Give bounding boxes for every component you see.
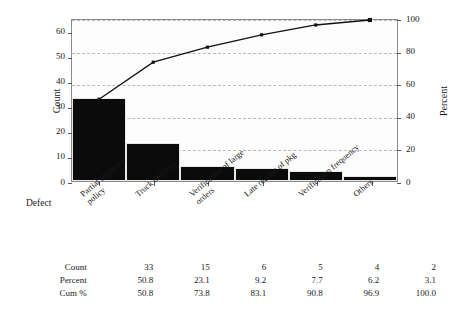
- left-axis-tick-label: 40: [41, 77, 65, 86]
- axis-tick: [68, 158, 72, 159]
- axis-tick: [68, 183, 72, 184]
- table-cell: 73.8: [153, 288, 210, 301]
- axis-tick: [68, 133, 72, 134]
- right-axis-tick-label: 80: [406, 47, 432, 56]
- table-cell: 33: [97, 262, 154, 275]
- table-cell: 100.0: [379, 288, 436, 301]
- axis-tick: [397, 53, 401, 54]
- axis-tick: [68, 83, 72, 84]
- left-axis-tick-label: 50: [41, 52, 65, 61]
- table-row-label: Cum %: [26, 288, 97, 301]
- axis-tick: [397, 20, 401, 21]
- table-cell: 50.8: [97, 288, 154, 301]
- table-cell: 90.8: [266, 288, 323, 301]
- table-cell: 23.1: [153, 275, 210, 288]
- table-row: Percent50.823.19.27.76.23.1: [26, 275, 436, 288]
- table-cell: 5: [266, 262, 323, 275]
- right-axis-tick-label: 60: [406, 80, 432, 89]
- right-axis-tick-label: 0: [406, 178, 432, 187]
- table-cell: 15: [153, 262, 210, 275]
- data-table: Count33156542Percent50.823.19.27.76.23.1…: [26, 262, 436, 301]
- x-axis-title-defect: Defect: [26, 198, 51, 208]
- table-cell: 4: [323, 262, 380, 275]
- table-cell: 7.7: [266, 275, 323, 288]
- table-row: Count33156542: [26, 262, 436, 275]
- left-axis-tick-label: 0: [41, 178, 65, 187]
- axis-tick: [397, 118, 401, 119]
- table-row: Cum %50.873.883.190.896.9100.0: [26, 288, 436, 301]
- table-cell: 6: [210, 262, 267, 275]
- left-axis-tick-label: 30: [41, 102, 65, 111]
- pareto-chart-figure: Count Percent 0102030405060 020406080100…: [0, 0, 458, 322]
- table-cell: 83.1: [210, 288, 267, 301]
- table-row-label: Percent: [26, 275, 97, 288]
- axis-tick: [68, 58, 72, 59]
- left-axis-tick-label: 60: [41, 27, 65, 36]
- right-axis-tick-label: 100: [406, 15, 432, 24]
- table-cell: 96.9: [323, 288, 380, 301]
- right-axis-tick-label: 40: [406, 112, 432, 121]
- table-cell: 50.8: [97, 275, 154, 288]
- table-cell: 9.2: [210, 275, 267, 288]
- axis-tick: [68, 33, 72, 34]
- bar-cell: [126, 20, 180, 181]
- left-axis-tick-label: 10: [41, 152, 65, 161]
- y-axis-title-percent: Percent: [438, 86, 449, 116]
- right-axis-tick-label: 20: [406, 145, 432, 154]
- table-cell: 3.1: [379, 275, 436, 288]
- table-cell: 6.2: [323, 275, 380, 288]
- axis-tick: [397, 150, 401, 151]
- table-cell: 2: [379, 262, 436, 275]
- table-row-label: Count: [26, 262, 97, 275]
- axis-tick: [397, 85, 401, 86]
- left-axis-tick-label: 20: [41, 127, 65, 136]
- axis-tick: [397, 183, 401, 184]
- axis-tick: [68, 108, 72, 109]
